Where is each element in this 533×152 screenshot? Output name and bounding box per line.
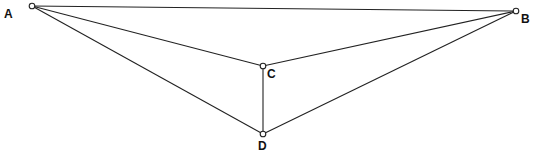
segment-ab (32, 6, 516, 11)
point-label-d: D (258, 139, 267, 152)
segment-bc (263, 11, 516, 66)
point-label-a: A (4, 7, 13, 21)
segment-ac (32, 6, 263, 66)
point-a (29, 3, 35, 9)
segment-ad (32, 6, 263, 134)
labels: ABCD (4, 7, 530, 152)
point-c (260, 63, 266, 69)
segment-bd (263, 11, 516, 134)
point-d (260, 131, 266, 137)
geometry-diagram: ABCD (0, 0, 533, 152)
point-b (513, 8, 519, 14)
point-label-c: C (267, 67, 276, 81)
point-label-b: B (521, 12, 530, 26)
